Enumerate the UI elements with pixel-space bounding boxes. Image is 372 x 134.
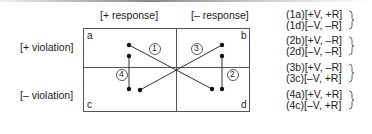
legend-item-1d: (1d)[–V, –R] [286, 20, 342, 31]
path-number-1: 1 [152, 43, 157, 53]
legend-group-3: (3b)[+V, –R] (3c)[–V, +R] [286, 62, 342, 84]
cell-label-a: a [87, 30, 93, 41]
cell-label-d: d [241, 99, 247, 110]
path-number-2: 2 [230, 69, 235, 79]
legend-group-2: (2b)[+V, –R] (2d)[–V, –R] [286, 35, 342, 57]
cell-label-b: b [241, 30, 247, 41]
legend-item-3c: (3c)[–V, +R] [286, 73, 342, 84]
path-number-3: 3 [194, 43, 199, 53]
legend-group-1: (1a)[+V, +R] (1d)[–V, –R] [286, 9, 342, 31]
legend-group-4: (4a)[+V, +R] (4c)[–V, +R] [286, 89, 342, 111]
path-number-4: 4 [119, 69, 124, 79]
legend-item-4c: (4c)[–V, +R] [286, 100, 342, 111]
legend-item-2d: (2d)[–V, –R] [286, 46, 342, 57]
cell-label-c: c [87, 99, 92, 110]
